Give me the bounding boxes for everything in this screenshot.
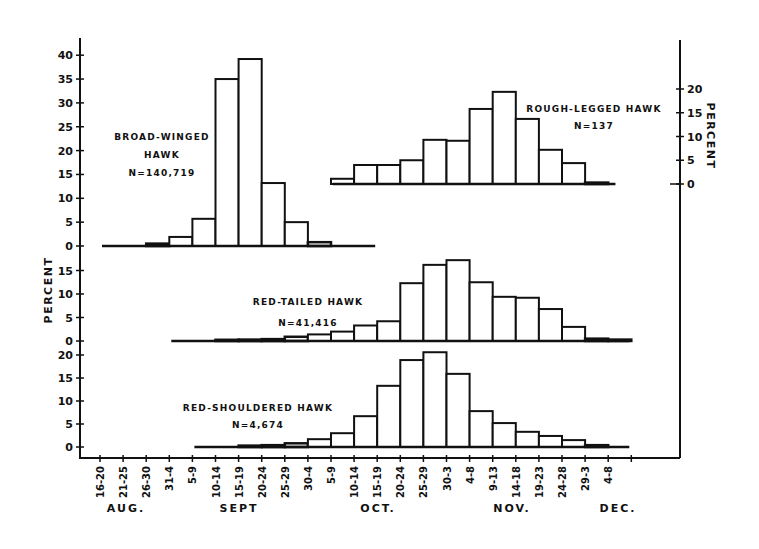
y-tick-label: 0 <box>65 441 73 454</box>
hawk-migration-chart: 0510152025303540BROAD-WINGEDHAWKN=140,71… <box>0 0 759 549</box>
left-y-axis-label: PERCENT <box>42 257 55 324</box>
x-tick-label: 24-28 <box>557 466 568 498</box>
histogram-bar <box>493 92 516 184</box>
y-tick-label: 35 <box>58 73 73 86</box>
x-tick-label: 29-3 <box>580 466 591 491</box>
x-tick-label: 5-9 <box>187 466 198 484</box>
x-tick-label: 31-4 <box>164 466 175 491</box>
y-tick-label: 40 <box>58 49 74 62</box>
x-axis: 16-2021-2526-3031-45-910-1415-1920-2425-… <box>95 455 636 515</box>
y-tick-label: 5 <box>65 312 73 325</box>
histogram-bar <box>354 416 377 447</box>
panel-broad-winged-hawk: 0510152025303540BROAD-WINGEDHAWKN=140,71… <box>58 49 376 253</box>
month-label: AUG. <box>107 502 145 515</box>
y-tick-label: 10 <box>687 131 703 144</box>
histogram-bar <box>516 119 539 184</box>
series-label: RED-SHOULDERED HAWK <box>183 403 333 413</box>
x-tick-label: 9-13 <box>488 466 499 491</box>
series-label: N=140,719 <box>129 168 196 178</box>
y-tick-label: 0 <box>65 335 73 348</box>
series-label: HAWK <box>144 150 180 160</box>
histogram-bar <box>447 374 470 447</box>
x-tick-label: 26-30 <box>141 466 152 498</box>
histogram-bar <box>493 423 516 447</box>
histogram-bar <box>285 222 308 246</box>
histogram-bar <box>239 59 262 246</box>
histogram-bar <box>400 160 423 184</box>
panel-rough-legged-hawk: 05101520ROUGH-LEGGED HAWKN=137 <box>331 83 703 191</box>
histogram-bar <box>354 325 377 341</box>
histogram-bar <box>331 332 354 341</box>
y-tick-label: 30 <box>58 97 74 110</box>
x-tick-label: 14-18 <box>511 466 522 498</box>
x-tick-label: 25-29 <box>280 466 291 498</box>
series-label: N=4,674 <box>232 420 284 430</box>
y-tick-label: 20 <box>58 145 74 158</box>
x-tick-label: 10-14 <box>211 466 222 498</box>
histogram-bar <box>539 309 562 341</box>
y-tick-label: 10 <box>58 192 74 205</box>
series-label: RED-TAILED HAWK <box>253 297 363 307</box>
x-tick-label: 5-9 <box>326 466 337 484</box>
y-tick-label: 5 <box>687 154 695 167</box>
x-tick-label: 30-3 <box>442 466 453 491</box>
histogram-bar <box>331 433 354 447</box>
panel-red-shouldered-hawk: 05101520RED-SHOULDERED HAWKN=4,674 <box>58 349 630 454</box>
histogram-bar <box>447 260 470 341</box>
histogram-bar <box>262 183 285 246</box>
y-tick-label: 5 <box>65 216 73 229</box>
x-tick-label: 20-24 <box>395 466 406 498</box>
histogram-bar <box>516 432 539 447</box>
histogram-bar <box>377 321 400 341</box>
month-label: OCT. <box>360 502 395 515</box>
month-label: SEPT <box>219 502 258 515</box>
histogram-bar <box>447 141 470 184</box>
x-tick-label: 10-14 <box>349 466 360 498</box>
histogram-bar <box>216 79 239 246</box>
x-tick-label: 4-8 <box>603 466 614 484</box>
series-label: BROAD-WINGED <box>114 132 209 142</box>
x-tick-label: 20-24 <box>257 466 268 498</box>
histogram-bar <box>470 109 493 184</box>
x-tick-label: 19-23 <box>534 466 545 498</box>
histogram-bar <box>470 411 493 447</box>
month-label: DEC. <box>600 502 637 515</box>
histogram-bar <box>516 298 539 341</box>
histogram-bar <box>562 163 585 184</box>
histogram-bar <box>539 436 562 447</box>
x-tick-label: 16-20 <box>95 466 106 498</box>
series-label: N=137 <box>574 121 614 131</box>
y-tick-label: 15 <box>58 265 73 278</box>
y-tick-label: 0 <box>687 178 695 191</box>
histogram-panels: 0510152025303540BROAD-WINGEDHAWKN=140,71… <box>58 49 703 454</box>
y-tick-label: 0 <box>65 240 73 253</box>
histogram-bar <box>423 352 446 447</box>
y-tick-label: 15 <box>58 168 73 181</box>
y-tick-label: 20 <box>58 349 74 362</box>
histogram-bar <box>493 297 516 341</box>
series-label: N=41,416 <box>278 318 337 328</box>
y-tick-label: 25 <box>58 121 73 134</box>
y-tick-label: 10 <box>58 288 74 301</box>
right-y-axis-label: PERCENT <box>704 103 717 170</box>
x-tick-label: 21-25 <box>118 466 129 498</box>
x-tick-label: 15-19 <box>372 466 383 498</box>
x-tick-label: 15-19 <box>234 466 245 498</box>
histogram-bar <box>423 140 446 184</box>
x-tick-label: 30-4 <box>303 466 314 491</box>
histogram-bar <box>400 360 423 447</box>
histogram-bar <box>470 282 493 341</box>
histogram-bar <box>192 219 215 246</box>
y-tick-label: 10 <box>58 395 74 408</box>
histogram-bar <box>400 283 423 341</box>
month-label: NOV. <box>493 502 531 515</box>
histogram-bar <box>377 165 400 184</box>
x-tick-label: 4-8 <box>465 466 476 484</box>
panel-red-tailed-hawk: 051015RED-TAILED HAWKN=41,416 <box>58 260 632 348</box>
histogram-bar <box>169 237 192 246</box>
y-tick-label: 15 <box>58 372 73 385</box>
histogram-bar <box>377 386 400 447</box>
histogram-bar <box>562 327 585 341</box>
series-label: ROUGH-LEGGED HAWK <box>526 104 661 114</box>
histogram-bar <box>539 150 562 184</box>
